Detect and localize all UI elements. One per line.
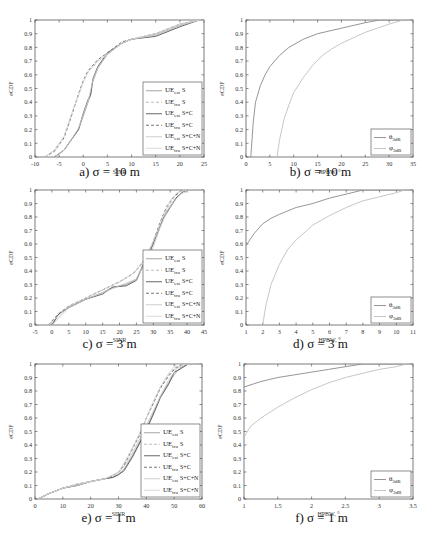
y-axis-label: eCDF xyxy=(8,250,14,265)
y-tick-label: 0.1 xyxy=(24,308,32,315)
y-tick-label: 1 xyxy=(240,186,243,193)
y-tick-label: 0.6 xyxy=(233,414,241,421)
y-tick-label: 0.5 xyxy=(24,85,32,92)
x-tick-label: -5 xyxy=(32,328,37,335)
x-tick-label: 30 xyxy=(115,502,121,509)
y-tick-label: 0.5 xyxy=(233,428,241,435)
y-tick-label: 0 xyxy=(240,321,243,328)
y-tick-label: 0.7 xyxy=(24,227,32,234)
y-tick-label: 0.7 xyxy=(235,57,243,64)
y-tick-label: 0.3 xyxy=(235,281,243,288)
x-tick-label: 40 xyxy=(143,502,149,509)
x-tick-label: 0 xyxy=(50,328,53,335)
y-tick-label: 0 xyxy=(240,153,243,160)
y-tick-label: 0.1 xyxy=(235,308,243,315)
x-tick-label: 15 xyxy=(100,328,106,335)
x-tick-label: 1.5 xyxy=(274,502,282,509)
y-tick-label: 0.2 xyxy=(235,294,243,301)
y-tick-label: 0.8 xyxy=(235,213,243,220)
y-tick-label: 1 xyxy=(238,360,241,367)
y-tick-label: 0 xyxy=(29,495,32,502)
x-tick-label: 30 xyxy=(150,328,156,335)
y-tick-label: 0.8 xyxy=(24,44,32,51)
chart-svg: 00.10.20.30.40.50.60.70.80.9111.522.533.… xyxy=(209,356,423,521)
y-tick-label: 0.6 xyxy=(235,240,243,247)
y-tick-label: 0.8 xyxy=(233,387,241,394)
legend: UEestSUEtruSUEestS+CUEtruS+CUEestS+C+NUE… xyxy=(143,82,202,155)
chart-caption: f) σ = 1 m xyxy=(222,510,421,526)
y-tick-label: 0.6 xyxy=(24,240,32,247)
y-tick-label: 0.5 xyxy=(235,85,243,92)
y-tick-label: 0.8 xyxy=(235,44,243,51)
y-tick-label: 0.7 xyxy=(24,57,32,64)
x-tick-label: 5 xyxy=(67,328,70,335)
y-tick-label: 0.4 xyxy=(233,441,241,448)
y-axis-label: eCDF xyxy=(8,81,14,96)
y-tick-label: 0.9 xyxy=(235,200,243,207)
y-tick-label: 0.4 xyxy=(24,267,32,274)
x-tick-label: 20 xyxy=(116,328,122,335)
y-tick-label: 0.3 xyxy=(235,112,243,119)
chart-caption: a) σ = 10 m xyxy=(10,164,209,180)
chart-caption: b) σ = 10 m xyxy=(222,164,419,180)
chart-panel-a: 00.10.20.30.40.50.60.70.80.91-10-5051015… xyxy=(0,12,214,183)
x-tick-label: 10 xyxy=(60,502,66,509)
y-tick-label: 0.9 xyxy=(235,30,243,37)
y-tick-label: 1 xyxy=(29,186,32,193)
x-tick-label: 40 xyxy=(184,328,190,335)
y-tick-label: 0.6 xyxy=(235,71,243,78)
legend: UEestSUEtruSUEestS+CUEtruS+CUEestS+C+NUE… xyxy=(141,424,200,497)
chart-caption: e) σ = 1 m xyxy=(10,510,207,526)
y-tick-label: 0.5 xyxy=(24,254,32,261)
y-tick-label: 0.3 xyxy=(24,281,32,288)
y-tick-label: 0.2 xyxy=(235,126,243,133)
y-tick-label: 0.4 xyxy=(235,98,243,105)
x-tick-label: 6 xyxy=(328,328,331,335)
y-tick-label: 0.6 xyxy=(24,71,32,78)
y-tick-label: 0.8 xyxy=(24,213,32,220)
chart-svg: 00.10.20.30.40.50.60.70.80.9112345678910… xyxy=(211,182,423,347)
y-tick-label: 0.4 xyxy=(235,267,243,274)
y-tick-label: 1 xyxy=(29,16,32,23)
y-tick-label: 0.7 xyxy=(233,401,241,408)
x-tick-label: 7 xyxy=(345,328,348,335)
y-tick-label: 0.9 xyxy=(24,374,32,381)
legend: θ3dBφ3dB xyxy=(371,297,411,323)
y-tick-label: 0.2 xyxy=(233,468,241,475)
x-tick-label: 10 xyxy=(83,328,89,335)
x-tick-label: 60 xyxy=(199,502,205,509)
x-tick-label: 3 xyxy=(378,502,381,509)
legend: UEestSUEtruSUEestS+CUEtruS+CUEestS+C+NUE… xyxy=(143,250,202,323)
chart-caption: d) σ = 3 m xyxy=(222,336,419,352)
y-tick-label: 0.2 xyxy=(24,294,32,301)
y-axis-label: eCDF xyxy=(219,81,225,96)
x-tick-label: 1 xyxy=(242,502,245,509)
y-tick-label: 0.1 xyxy=(24,482,32,489)
y-axis-label: eCDF xyxy=(8,424,14,439)
y-tick-label: 0.5 xyxy=(24,428,32,435)
legend: θ3dBφ3dB xyxy=(371,129,411,155)
x-tick-label: 2 xyxy=(261,328,264,335)
x-tick-label: 1 xyxy=(244,328,247,335)
x-tick-label: 8 xyxy=(361,328,364,335)
x-tick-label: 2 xyxy=(310,502,313,509)
x-tick-label: 10 xyxy=(393,328,399,335)
chart-panel-c: 00.10.20.30.40.50.60.70.80.91-5051015202… xyxy=(0,182,214,351)
y-tick-label: 0 xyxy=(238,495,241,502)
chart-panel-e: 00.10.20.30.40.50.60.70.80.9101020304050… xyxy=(0,356,212,525)
y-tick-label: 0.6 xyxy=(24,414,32,421)
y-tick-label: 0.2 xyxy=(24,468,32,475)
y-tick-label: 0.5 xyxy=(235,254,243,261)
y-tick-label: 0.4 xyxy=(24,441,32,448)
x-tick-label: 50 xyxy=(171,502,177,509)
y-tick-label: 0.7 xyxy=(24,401,32,408)
chart-svg: 00.10.20.30.40.50.60.70.80.91-5051015202… xyxy=(0,182,214,347)
x-tick-label: 25 xyxy=(133,328,139,335)
y-tick-label: 0.1 xyxy=(235,140,243,147)
legend: θ3dBφ3dB xyxy=(371,471,411,497)
y-tick-label: 0.3 xyxy=(233,455,241,462)
x-tick-label: 45 xyxy=(201,328,207,335)
chart-panel-f: 00.10.20.30.40.50.60.70.80.9111.522.533.… xyxy=(209,356,423,525)
y-tick-label: 1 xyxy=(29,360,32,367)
chart-panel-b: 00.10.20.30.40.50.60.70.80.9105101520253… xyxy=(211,12,423,183)
